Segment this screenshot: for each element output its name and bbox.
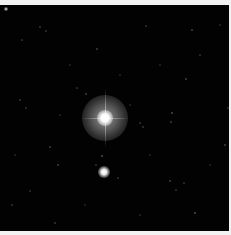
field-star: [175, 189, 177, 191]
field-star: [185, 78, 187, 80]
field-star: [227, 107, 229, 109]
field-star: [199, 54, 201, 56]
field-star: [119, 74, 121, 76]
field-star: [159, 64, 161, 66]
field-star: [191, 29, 193, 31]
field-star: [95, 164, 97, 166]
field-star: [76, 87, 78, 89]
field-star: [59, 114, 61, 116]
field-star: [117, 177, 119, 179]
field-star: [54, 222, 56, 224]
field-star: [69, 64, 71, 66]
field-star: [14, 154, 16, 156]
field-star: [145, 25, 147, 27]
field-star: [57, 164, 59, 166]
field-star: [21, 39, 23, 41]
star-field-image: [0, 5, 229, 231]
field-star: [85, 93, 87, 95]
secondary-star: [98, 166, 110, 178]
field-star: [170, 121, 172, 123]
field-star: [4, 7, 8, 11]
field-star: [142, 126, 144, 128]
primary-star: [97, 110, 113, 126]
field-star: [19, 99, 21, 101]
field-star: [84, 204, 86, 206]
field-star: [183, 182, 185, 184]
field-star: [169, 180, 171, 182]
field-star: [11, 204, 13, 206]
field-star: [139, 214, 141, 216]
field-star: [219, 24, 221, 26]
field-star: [39, 26, 41, 28]
field-star: [194, 212, 196, 214]
field-star: [96, 48, 98, 50]
field-star: [101, 155, 103, 157]
field-star: [139, 122, 141, 124]
field-star: [45, 30, 47, 32]
field-star: [29, 190, 31, 192]
field-star: [49, 146, 51, 148]
field-star: [149, 154, 151, 156]
field-star: [224, 144, 226, 146]
field-star: [129, 104, 131, 106]
field-star: [171, 112, 173, 114]
field-star: [25, 107, 27, 109]
field-star: [209, 164, 211, 166]
